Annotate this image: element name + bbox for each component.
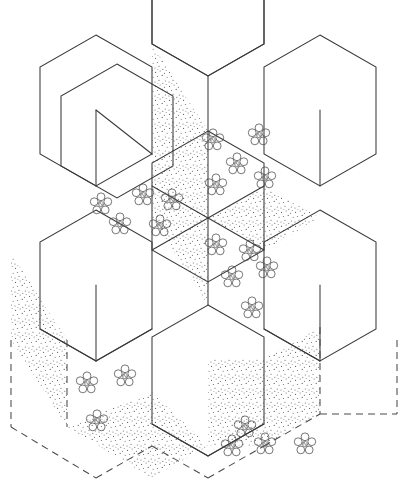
- face-lower-right-wall: [208, 359, 264, 446]
- hexagon-top: [152, 0, 264, 76]
- figure-canvas: [0, 0, 404, 491]
- hexagon-tessellation-svg: [0, 0, 404, 491]
- lower-left-floor-right: [96, 329, 152, 361]
- hexagon-top-visible: [152, 0, 264, 76]
- upper-left-spoke-right: [96, 110, 152, 154]
- face-lower-left-floor: [67, 392, 208, 478]
